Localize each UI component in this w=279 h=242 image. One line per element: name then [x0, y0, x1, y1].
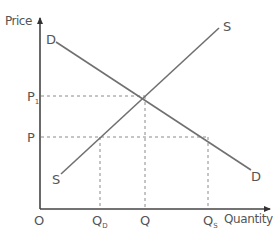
- qs-label: QS: [203, 213, 218, 230]
- x-axis-label: Quantity: [224, 212, 273, 226]
- supply-curve: [61, 28, 219, 174]
- p1-label: P1: [27, 89, 39, 106]
- y-axis-label: Price: [5, 14, 32, 28]
- supply-demand-diagram: Price Quantity O D D S S P1 P QD Q QS: [0, 0, 279, 242]
- qd-label: QD: [92, 213, 108, 230]
- origin-label: O: [34, 213, 44, 228]
- demand-end-label: D: [251, 169, 261, 184]
- p-label: P: [27, 130, 35, 145]
- supply-end-label: S: [223, 19, 231, 34]
- q-label: Q: [140, 213, 150, 228]
- demand-start-label: D: [46, 32, 56, 47]
- supply-start-label: S: [52, 172, 60, 187]
